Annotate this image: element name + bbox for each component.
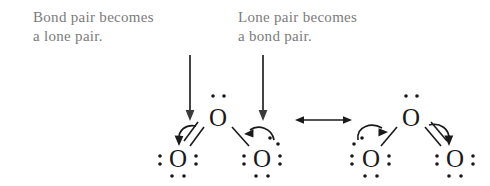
atom-label-o-terminal-left-left: O <box>169 146 187 171</box>
bond-center-to-left-single <box>381 127 397 146</box>
resonance-arrow <box>295 116 352 124</box>
atom-label-o-center-left: O <box>209 105 227 130</box>
lone-pair-center-o-top-right-structure <box>404 94 419 98</box>
bond-center-to-right-double <box>425 122 447 146</box>
lone-pair-center-o-top-left-structure <box>211 94 226 98</box>
atom-label-o-terminal-left-right: O <box>362 146 380 171</box>
atom-label-o-center-right: O <box>402 105 420 130</box>
pointer-arrow-right <box>259 55 268 121</box>
atom-label-o-terminal-right-left: O <box>253 146 271 171</box>
structure-drawing-layer <box>0 0 490 186</box>
ozone-resonance-figure: Bond pair becomes a lone pair. Lone pair… <box>0 0 490 186</box>
bond-center-to-right-single <box>232 127 249 146</box>
atom-label-o-terminal-right-right: O <box>446 146 464 171</box>
pointer-arrow-left <box>186 55 195 121</box>
